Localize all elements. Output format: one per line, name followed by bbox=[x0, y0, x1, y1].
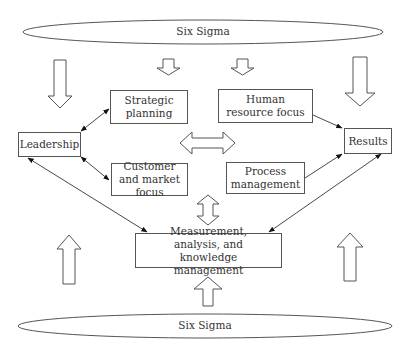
leadership-customer-connector bbox=[81, 157, 109, 180]
human-resource-focus-node: Human resource focus bbox=[218, 89, 313, 123]
results-node: Results bbox=[344, 128, 392, 154]
horizontal-double-block-arrow-icon bbox=[180, 132, 235, 154]
process-management-node: Process management bbox=[226, 162, 305, 194]
right-up-block-arrow-icon bbox=[337, 233, 363, 281]
right-down-block-arrow-icon bbox=[345, 57, 375, 106]
leadership-strategic-connector bbox=[81, 109, 109, 131]
center-left-down-block-arrow-icon bbox=[157, 59, 180, 75]
leadership-node: Leadership bbox=[18, 132, 81, 157]
process-results-connector bbox=[305, 154, 342, 178]
bottom-six-sigma-label: Six Sigma bbox=[105, 319, 305, 331]
top-six-sigma-label: Six Sigma bbox=[103, 25, 303, 37]
diagram-graphics bbox=[0, 0, 410, 350]
six-sigma-diagram: Six Sigma Six Sigma Leadership Strategic… bbox=[0, 0, 410, 350]
customer-market-focus-node: Customer and market focus bbox=[111, 163, 188, 196]
strategic-planning-node: Strategic planning bbox=[110, 90, 188, 124]
left-down-block-arrow-icon bbox=[48, 60, 72, 108]
hr-results-connector bbox=[313, 115, 342, 128]
left-up-block-arrow-icon bbox=[57, 235, 81, 284]
measurement-analysis-knowledge-node: Measurement, analysis, and knowledge man… bbox=[135, 233, 282, 268]
vertical-double-block-arrow-icon bbox=[197, 195, 219, 225]
center-right-down-block-arrow-icon bbox=[231, 59, 254, 75]
center-up-block-arrow-icon bbox=[194, 277, 222, 306]
